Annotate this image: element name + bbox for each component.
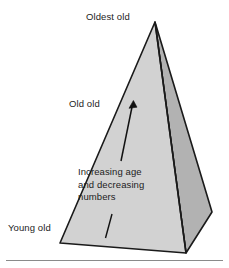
annotation-line-1: Increasing age [78,166,158,179]
label-young-old: Young old [8,222,51,234]
bottom-divider-rule [6,260,223,261]
label-oldest-old: Oldest old [86,11,130,23]
annotation-increasing-age: Increasing age and decreasing numbers [78,166,158,204]
label-old-old: Old old [69,98,100,110]
annotation-line-3: numbers [78,191,158,204]
pyramid-figure: Oldest old Old old Young old Increasing … [0,0,229,268]
pyramid-left-face [60,22,186,253]
annotation-line-2: and decreasing [78,179,158,192]
